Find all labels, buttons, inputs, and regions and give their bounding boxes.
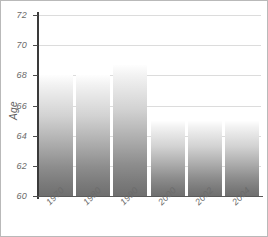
y-tick-label: 62 (16, 161, 27, 171)
bar (113, 65, 147, 196)
bar (225, 121, 259, 196)
y-tick-mark (33, 45, 38, 46)
bar-chart-figure: 60626466687072 197019801990200020022004 … (0, 0, 268, 237)
bar-series (37, 15, 261, 196)
bar (188, 121, 222, 196)
y-tick-label: 72 (16, 10, 27, 20)
plot-area (37, 15, 261, 196)
y-tick-mark (33, 136, 38, 137)
y-tick-mark (33, 75, 38, 76)
bar (76, 75, 110, 196)
y-tick-label: 68 (16, 70, 27, 80)
y-tick-label: 64 (16, 131, 27, 141)
y-tick-label: 60 (16, 191, 27, 201)
y-tick-mark (33, 196, 38, 197)
y-axis-title: Age (8, 91, 19, 131)
y-tick-mark (33, 106, 38, 107)
y-tick-mark (33, 15, 38, 16)
x-axis-spine (37, 196, 263, 197)
bar (151, 121, 185, 196)
bar (39, 75, 73, 196)
y-tick-label: 70 (16, 40, 27, 50)
y-tick-mark (33, 166, 38, 167)
